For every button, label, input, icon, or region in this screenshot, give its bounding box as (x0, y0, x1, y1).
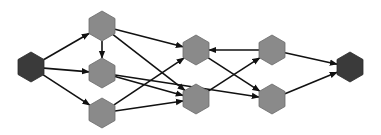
edge-s-to-c (43, 75, 90, 105)
hexagon-node-t (337, 52, 363, 82)
hexagon-node-a (89, 11, 115, 41)
edge-s-to-b (44, 68, 89, 72)
graph-diagram (0, 0, 381, 135)
hexagon-node-s (18, 52, 44, 82)
edge-g-to-t (285, 72, 337, 93)
hexagon-node-g (259, 84, 285, 114)
edge-s-to-a (44, 34, 89, 60)
hexagon-node-c (89, 98, 115, 128)
hexagon-node-d (183, 35, 209, 65)
hexagon-node-b (89, 58, 115, 88)
edge-c-to-e (115, 101, 183, 111)
hexagon-node-f (259, 35, 285, 65)
edge-f-to-t (285, 53, 337, 64)
